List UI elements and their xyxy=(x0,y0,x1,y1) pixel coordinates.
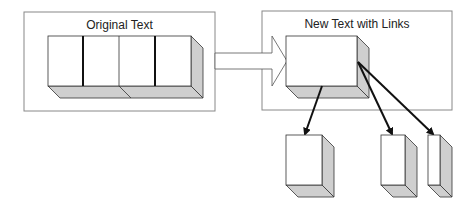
new-text-block xyxy=(286,36,369,98)
original-text-panel: Original Text xyxy=(24,12,215,111)
new-text-title: New Text with Links xyxy=(304,17,409,31)
link-target-block-3 xyxy=(428,135,452,197)
diagram-canvas: Original Text New Text with Links xyxy=(0,0,476,207)
original-text-title: Original Text xyxy=(86,18,153,32)
link-target-block-2 xyxy=(381,135,417,197)
link-target-block-1 xyxy=(286,135,334,197)
original-text-block xyxy=(48,36,203,98)
transform-arrow xyxy=(215,36,287,86)
